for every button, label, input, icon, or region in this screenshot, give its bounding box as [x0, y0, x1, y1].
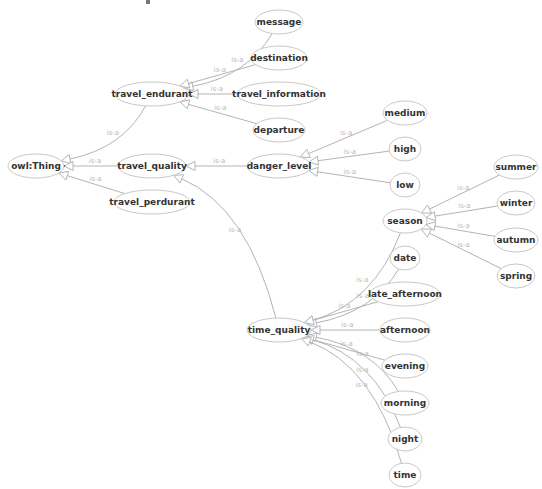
edge-high-to-danger_level: is-a: [309, 148, 389, 166]
edge-departure-to-travel_endurant: is-a: [180, 100, 257, 124]
node-label: autumn: [497, 235, 536, 245]
edge-label: is-a: [341, 321, 353, 329]
is-a-arrowhead-icon: [421, 229, 431, 237]
node-label: summer: [495, 162, 537, 172]
edge-label: is-a: [340, 129, 352, 137]
edge-label: is-a: [356, 366, 368, 374]
node-label: owl:Thing: [11, 161, 61, 171]
node-summer[interactable]: summer: [494, 155, 538, 179]
edge-label: is-a: [231, 56, 243, 64]
is-a-arrowhead-icon: [186, 162, 195, 171]
node-label: departure: [254, 125, 305, 135]
is-a-arrowhead-icon: [174, 175, 184, 183]
edge-label: is-a: [356, 350, 368, 358]
edge-label: is-a: [229, 226, 241, 234]
node-travel_quality[interactable]: travel_quality: [117, 154, 187, 178]
node-medium[interactable]: medium: [383, 101, 427, 125]
edge-line: [182, 179, 276, 318]
edge-label: is-a: [89, 157, 101, 165]
edge-label: is-a: [457, 222, 469, 230]
node-danger_level[interactable]: danger_level: [247, 154, 312, 178]
node-spring[interactable]: spring: [497, 264, 535, 288]
node-label: destination: [250, 53, 308, 63]
node-label: travel_information: [232, 89, 326, 99]
is-a-arrowhead-icon: [301, 338, 311, 346]
edge-travel_perdurant-to-owl_thing: is-a: [59, 171, 125, 193]
edge-travel_endurant-to-owl_thing: is-a: [61, 106, 146, 164]
node-low[interactable]: low: [390, 173, 420, 197]
node-label: danger_level: [247, 161, 312, 171]
edge-label: is-a: [457, 241, 469, 249]
edge-label: is-a: [457, 184, 469, 192]
node-travel_information[interactable]: travel_information: [232, 82, 326, 106]
node-label: travel_perdurant: [109, 197, 195, 207]
node-label: medium: [385, 108, 426, 118]
edge-label: is-a: [458, 202, 470, 210]
node-label: time_quality: [248, 325, 311, 335]
ontology-graph: is-ais-ais-ais-ais-ais-ais-ais-ais-ais-a…: [0, 0, 542, 489]
edge-low-to-danger_level: is-a: [309, 167, 391, 182]
edge-label: is-a: [213, 157, 225, 165]
edge-label: is-a: [356, 276, 368, 284]
node-date[interactable]: date: [390, 246, 420, 270]
node-label: evening: [385, 361, 425, 371]
node-afternoon[interactable]: afternoon: [380, 318, 430, 342]
edge-season-to-time_quality: is-a: [304, 233, 400, 325]
is-a-arrowhead-icon: [421, 205, 431, 213]
node-label: spring: [500, 271, 532, 281]
node-label: travel_quality: [117, 161, 187, 171]
edge-evening-to-time_quality: is-a: [305, 335, 385, 360]
node-label: night: [392, 434, 419, 444]
edge-label: is-a: [214, 104, 226, 112]
node-destination[interactable]: destination: [250, 46, 308, 70]
ontology-graph-canvas: is-ais-ais-ais-ais-ais-ais-ais-ais-ais-a…: [0, 0, 542, 489]
node-travel_perdurant[interactable]: travel_perdurant: [109, 190, 195, 214]
node-label: travel_endurant: [112, 89, 194, 99]
edge-autumn-to-season: is-a: [426, 222, 495, 237]
edge-afternoon-to-time_quality: is-a: [311, 321, 380, 335]
edge-label: is-a: [344, 168, 356, 176]
node-label: date: [394, 253, 417, 263]
edge-label: is-a: [89, 175, 101, 183]
edge-label: is-a: [338, 302, 350, 310]
edge-line: [429, 233, 501, 269]
node-morning[interactable]: morning: [381, 391, 429, 415]
node-label: message: [257, 17, 302, 27]
node-label: high: [394, 144, 416, 154]
node-time[interactable]: time: [389, 463, 421, 487]
edge-label: is-a: [355, 381, 367, 389]
node-label: morning: [384, 398, 426, 408]
node-label: time: [394, 470, 417, 480]
node-label: winter: [500, 198, 533, 208]
node-departure[interactable]: departure: [253, 118, 305, 142]
edge-label: is-a: [214, 66, 226, 74]
node-label: late_afternoon: [368, 289, 442, 299]
edge-label: is-a: [211, 85, 223, 93]
node-time_quality[interactable]: time_quality: [247, 318, 311, 342]
node-winter[interactable]: winter: [497, 191, 535, 215]
node-season[interactable]: season: [383, 209, 427, 233]
node-owl_thing[interactable]: owl:Thing: [8, 154, 64, 178]
node-evening[interactable]: evening: [382, 354, 428, 378]
edge-danger_level-to-travel_quality: is-a: [186, 157, 247, 171]
edge-label: is-a: [107, 129, 119, 137]
node-autumn[interactable]: autumn: [494, 228, 538, 252]
is-a-arrowhead-icon: [300, 149, 310, 157]
node-late_afternoon[interactable]: late_afternoon: [368, 282, 442, 306]
node-label: afternoon: [380, 325, 430, 335]
node-night[interactable]: night: [388, 427, 422, 451]
node-label: season: [387, 216, 422, 226]
node-high[interactable]: high: [389, 137, 421, 161]
edge-label: is-a: [344, 148, 356, 156]
node-message[interactable]: message: [255, 10, 303, 34]
edge-travel_information-to-travel_endurant: is-a: [189, 85, 237, 99]
node-label: low: [396, 180, 414, 190]
